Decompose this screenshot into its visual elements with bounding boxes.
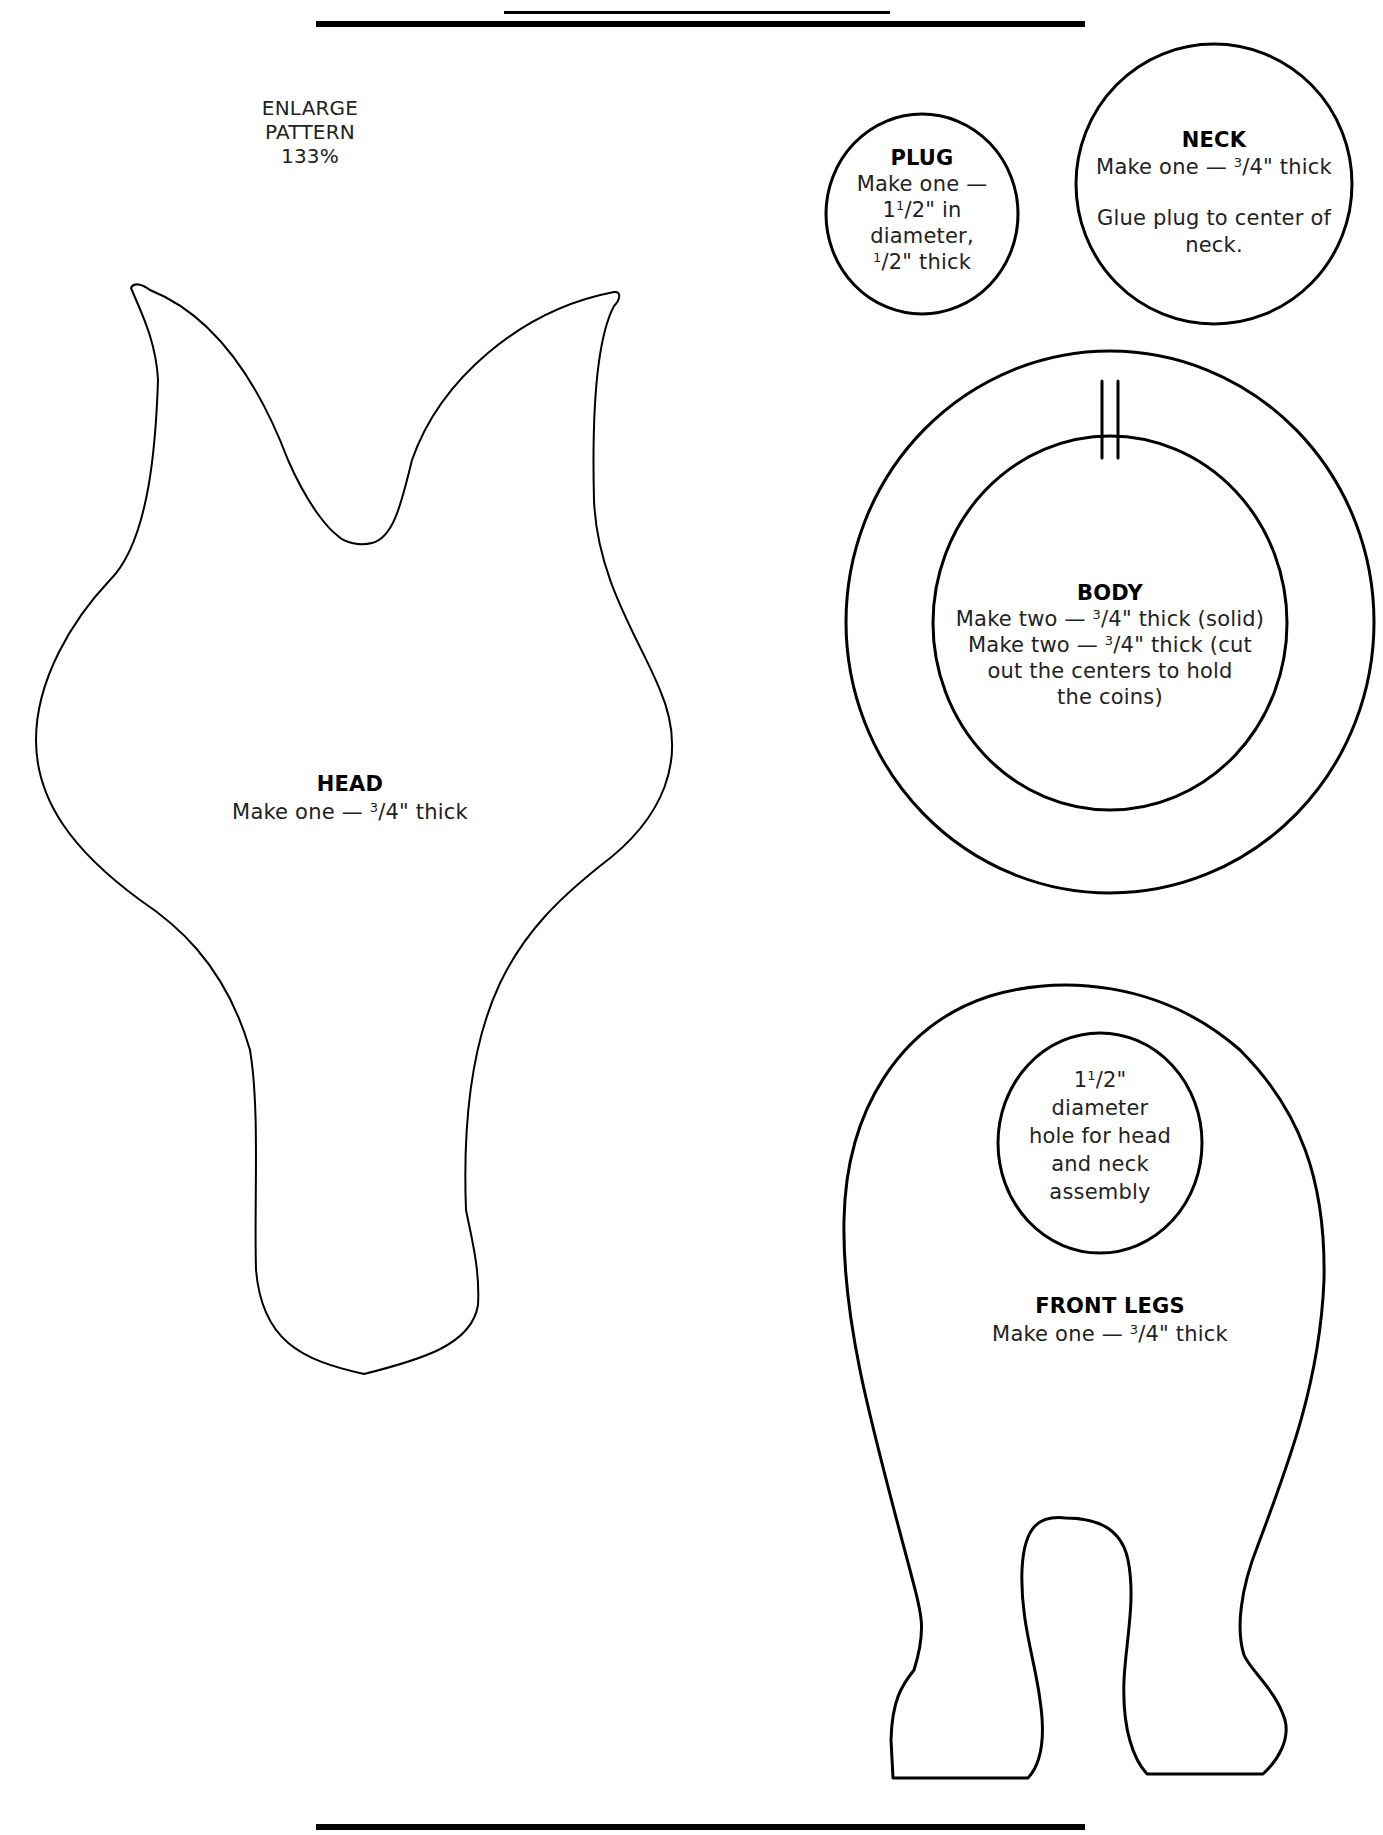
hole-line-5: assembly bbox=[1000, 1178, 1200, 1206]
plug-line-4: 1/2" thick bbox=[832, 249, 1012, 275]
front-legs-label: FRONT LEGS Make one — 3/4" thick bbox=[960, 1292, 1260, 1348]
head-outline bbox=[36, 284, 672, 1374]
head-label: HEAD Make one — 3/4" thick bbox=[200, 770, 500, 826]
enlarge-note-line-2: PATTERN bbox=[220, 120, 400, 144]
plug-title: PLUG bbox=[832, 145, 1012, 171]
pattern-outlines bbox=[0, 0, 1383, 1835]
body-title: BODY bbox=[930, 580, 1290, 606]
hole-line-1: 11/2" bbox=[1000, 1066, 1200, 1094]
hole-line-3: hole for head bbox=[1000, 1122, 1200, 1150]
body-line-4: the coins) bbox=[930, 684, 1290, 710]
body-line-3: out the centers to hold bbox=[930, 658, 1290, 684]
neck-title: NECK bbox=[1084, 127, 1344, 154]
neck-label: NECK Make one — 3/4" thick Glue plug to … bbox=[1084, 127, 1344, 259]
enlarge-note: ENLARGE PATTERN 133% bbox=[220, 96, 400, 168]
body-line-1: Make two — 3/4" thick (solid) bbox=[930, 606, 1290, 632]
plug-line-3: diameter, bbox=[832, 223, 1012, 249]
plug-label: PLUG Make one — 11/2" in diameter, 1/2" … bbox=[832, 145, 1012, 275]
hole-line-4: and neck bbox=[1000, 1150, 1200, 1178]
head-line-1: Make one — 3/4" thick bbox=[200, 798, 500, 826]
enlarge-note-line-1: ENLARGE bbox=[220, 96, 400, 120]
plug-line-2: 11/2" in bbox=[832, 197, 1012, 223]
plug-line-1: Make one — bbox=[832, 171, 1012, 197]
body-label: BODY Make two — 3/4" thick (solid) Make … bbox=[930, 580, 1290, 710]
enlarge-note-line-3: 133% bbox=[220, 144, 400, 168]
front-legs-hole-label: 11/2" diameter hole for head and neck as… bbox=[1000, 1066, 1200, 1206]
head-title: HEAD bbox=[200, 770, 500, 798]
hole-line-2: diameter bbox=[1000, 1094, 1200, 1122]
neck-instruction-2: neck. bbox=[1084, 232, 1344, 259]
front-legs-title: FRONT LEGS bbox=[960, 1292, 1260, 1320]
body-line-2: Make two — 3/4" thick (cut bbox=[930, 632, 1290, 658]
front-legs-line-1: Make one — 3/4" thick bbox=[960, 1320, 1260, 1348]
neck-instruction-1: Glue plug to center of bbox=[1084, 205, 1344, 232]
neck-spacer bbox=[1084, 181, 1344, 205]
neck-line-1: Make one — 3/4" thick bbox=[1084, 154, 1344, 181]
